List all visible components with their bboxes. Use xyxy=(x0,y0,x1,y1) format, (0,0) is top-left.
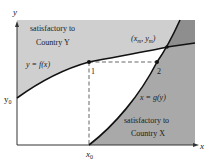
x-axis-label: x xyxy=(199,141,204,151)
curve-g-label: x = g(y) xyxy=(139,93,166,102)
x0-tick-label: x0 xyxy=(85,149,93,160)
curve-f-label: y = f(x) xyxy=(25,60,50,69)
point-1-label: 1 xyxy=(91,67,95,76)
region-y-label-line1: satisfactory to xyxy=(30,24,75,33)
point-2-label: 2 xyxy=(157,67,161,76)
region-y-label-line2: Country Y xyxy=(36,38,70,47)
region-x-label-line1: satisfactory to xyxy=(124,116,169,125)
point-2-marker xyxy=(155,60,159,64)
equilibrium-marker xyxy=(165,45,169,49)
region-x-label-line2: Country X xyxy=(131,129,165,138)
x-axis-arrow-icon xyxy=(193,143,199,147)
diagram: y x y0 x0 satisfactory to Country Y sati… xyxy=(0,0,207,161)
point-1-marker xyxy=(87,60,91,64)
y0-tick-label: y0 xyxy=(4,94,12,105)
y-axis-label: y xyxy=(12,7,17,17)
equilibrium-label: (xm, ym) xyxy=(131,34,156,44)
